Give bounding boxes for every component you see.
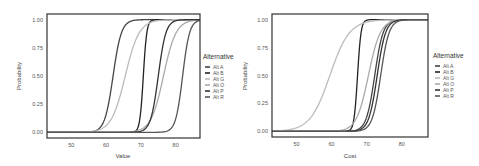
legend: Alternative Alt AAlt BAlt GAlt OAlt PAlt… xyxy=(433,52,464,99)
y-tick-label: 1.00 xyxy=(32,17,43,23)
y-tick-label: 0.50 xyxy=(32,73,43,79)
x-axis-label: Cost xyxy=(344,153,357,159)
chart-value: Probability Value 0.000.250.500.751.0050… xyxy=(16,14,234,159)
y-tick-label: 0.50 xyxy=(257,73,268,79)
legend-title: Alternative xyxy=(203,53,234,60)
y-axis-label: Probability xyxy=(16,62,22,90)
curve-alt-a xyxy=(272,20,428,132)
y-tick-label: 0.00 xyxy=(257,128,268,134)
x-tick-label: 60 xyxy=(329,141,335,147)
y-tick-label: 0.25 xyxy=(32,101,43,107)
y-tick-label: 1.00 xyxy=(257,17,268,23)
legend-label: Alt R xyxy=(443,93,454,99)
plot-frame xyxy=(47,14,200,138)
x-axis-label: Value xyxy=(116,153,132,159)
legend-title: Alternative xyxy=(433,52,464,59)
curve-alt-g xyxy=(272,20,428,132)
curves xyxy=(272,20,428,132)
curve-alt-r xyxy=(272,20,428,132)
x-tick-label: 80 xyxy=(173,142,179,148)
y-tick-label: 0.75 xyxy=(32,45,43,51)
y-tick-label: 0.00 xyxy=(32,129,43,135)
y-axis-label: Probability xyxy=(242,62,248,90)
chart-cost: Probability Cost 0.000.250.500.751.00506… xyxy=(242,14,464,159)
y-tick-label: 0.75 xyxy=(257,45,268,51)
legend-label: Alt R xyxy=(213,94,224,100)
curves xyxy=(47,20,200,133)
x-tick-label: 70 xyxy=(138,142,144,148)
curve-alt-r xyxy=(47,20,200,132)
x-tick-label: 50 xyxy=(68,142,74,148)
x-tick-label: 60 xyxy=(103,142,109,148)
y-tick-label: 0.25 xyxy=(257,100,268,106)
legend: Alternative Alt AAlt BAlt GAlt OAlt PAlt… xyxy=(203,53,234,100)
curve-alt-o xyxy=(272,20,428,132)
curve-alt-p xyxy=(272,20,428,132)
x-tick-label: 70 xyxy=(364,141,370,147)
x-tick-label: 50 xyxy=(293,141,299,147)
curve-alt-b xyxy=(272,20,428,132)
figure: Probability Value 0.000.250.500.751.0050… xyxy=(0,0,479,166)
x-tick-label: 80 xyxy=(399,141,405,147)
